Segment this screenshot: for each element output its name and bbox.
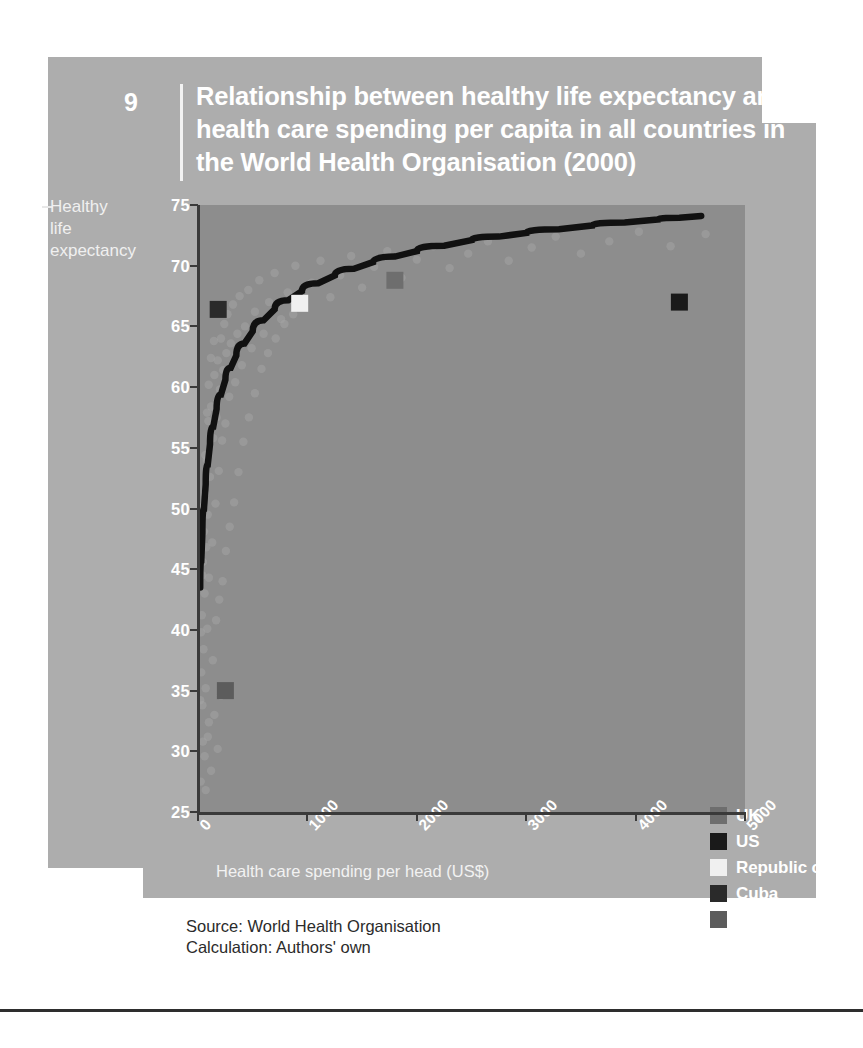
scatter-point [200,589,208,597]
scatter-point [358,283,366,291]
scatter-plot-canvas [198,205,745,812]
scatter-point [255,276,263,284]
x-axis-ticks: 010002000300040005000 [198,812,745,902]
country-marker-uk[interactable] [386,272,403,289]
scatter-point [245,413,253,421]
country-marker-us[interactable] [671,294,688,311]
y-tick-label: 35 [150,681,190,700]
scatter-point [234,468,242,476]
scatter-point [225,393,233,401]
legend-label: Republic of Korea [736,858,863,878]
y-tick-label: 55 [150,438,190,457]
country-marker-swaziland[interactable] [217,682,234,699]
scatter-point [413,255,421,263]
scatter-point [214,745,222,753]
r2-label: R2 = 0.7 [841,456,863,475]
x-tick-label: 0 [196,815,215,834]
scatter-point [241,322,249,330]
figure-container: 9 Relationship between healthy life expe… [0,0,863,1048]
scatter-point [505,257,513,265]
y-tick-label: 45 [150,560,190,579]
source-note: Source: World Health Organisation Calcul… [186,916,441,958]
scatter-point [239,438,247,446]
country-marker-republic-of-korea[interactable] [291,295,308,312]
scatter-point [635,228,643,236]
scatter-point [605,237,613,245]
scatter-point [270,269,278,277]
scatter-point [215,595,223,603]
scatter-point [235,292,243,300]
scatter-point [464,249,472,257]
figure-number: 9 [96,88,166,117]
scatter-point [203,408,211,416]
header-divider [180,84,183,181]
scatter-point [199,737,207,745]
scatter-point [247,344,255,352]
y-tick-label: 25 [150,803,190,822]
scatter-point [264,349,272,357]
scatter-point [210,371,218,379]
r2-prefix: R [841,457,853,474]
scatter-point [280,320,288,328]
scatter-point [205,718,213,726]
scatter-point [209,656,217,664]
y-tick-label: 60 [150,378,190,397]
scatter-point [202,684,210,692]
scatter-point [218,577,226,585]
scatter-point [528,243,536,251]
r2-annotation: R2 = 0.7 [841,448,863,475]
scatter-point [347,252,355,260]
scatter-point [222,547,230,555]
scatter-point [227,339,235,347]
scatter-point [666,242,674,250]
scatter-point [244,286,252,294]
scatter-point [199,645,207,653]
bottom-divider [0,1009,863,1012]
scatter-point [257,365,265,373]
x-axis-title: Health care spending per head (US$) [216,862,489,881]
source-line: Source: World Health Organisation [186,916,441,937]
scatter-point [229,300,237,308]
legend-item-swaziland[interactable]: Swaziland [710,907,863,932]
scatter-point [215,467,223,475]
country-markers-group [210,272,688,699]
y-tick-label: 70 [150,256,190,275]
legend-swatch-icon [710,911,727,928]
calculation-line: Calculation: Authors' own [186,937,441,958]
scatter-point [238,361,246,369]
plot-area: R2 = 0.7 UKUSRepublic of KoreaCubaSwazil… [198,205,745,812]
scatter-point [326,293,334,301]
scatter-point [259,330,267,338]
scatter-point [205,381,213,389]
scatter-point [222,349,230,357]
y-tick-label: 65 [150,317,190,336]
legend-label: Swaziland [736,910,817,930]
scatter-point [212,616,220,624]
scatter-point [226,523,234,531]
trendline-legend-swatch [841,448,863,452]
scatter-point [230,498,238,506]
y-tick-label: 40 [150,620,190,639]
scatter-point [210,711,218,719]
scatter-point [577,249,585,257]
r2-superscript: 2 [853,456,859,467]
y-tick-label: 75 [150,196,190,215]
scatter-point [316,257,324,265]
country-marker-cuba[interactable] [210,301,227,318]
scatter-point [202,786,210,794]
y-axis-ticks: 7570656055504540353025 [146,205,190,812]
scatter-point [231,378,239,386]
y-tick-label: 50 [150,499,190,518]
scatter-point [251,389,259,397]
x-axis-line [198,812,745,815]
scatter-point [233,330,241,338]
scatter-point [200,752,208,760]
scatter-point [211,499,219,507]
scatter-point [272,334,280,342]
scatter-point [701,230,709,238]
scatter-point [552,232,560,240]
scatter-point [221,419,229,427]
scatter-point [207,767,215,775]
y-tick-label: 30 [150,742,190,761]
scatter-point [220,320,228,328]
